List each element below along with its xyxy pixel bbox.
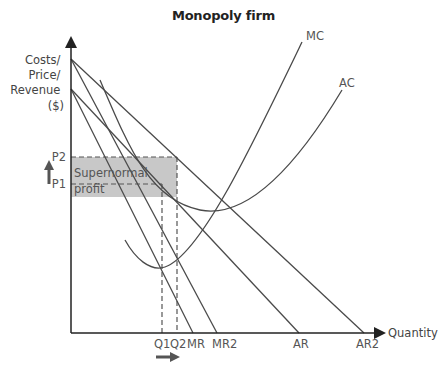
p2-label: P2: [52, 150, 66, 164]
supernormal-label-line-2: profit: [74, 182, 105, 196]
ar-label: AR: [293, 337, 309, 351]
mr2-label: MR2: [212, 337, 237, 351]
supernormal-label-line-1: Supernormal: [74, 166, 148, 180]
mc-curve: [125, 42, 302, 268]
y-label-line-4: ($): [48, 99, 64, 113]
ar2-label: AR2: [356, 337, 379, 351]
y-label-line-1: Costs/: [25, 53, 61, 67]
p1-label: P1: [52, 177, 66, 191]
y-label-line-3: Revenue: [10, 83, 60, 97]
y-label-line-2: Price/: [28, 68, 60, 82]
x-axis-label: Quantity: [388, 326, 438, 340]
ar-curve: [71, 89, 299, 333]
y-axis-label: Costs/ Price/ Revenue ($): [10, 53, 64, 113]
quantity-right-arrow-icon: [156, 352, 180, 362]
q2-label: Q2: [170, 337, 186, 351]
q1-label: Q1: [154, 337, 170, 351]
monopoly-diagram: Costs/ Price/ Revenue ($) Quantity P2 P1…: [0, 0, 447, 372]
ac-label: AC: [339, 76, 355, 90]
mc-label: MC: [306, 29, 324, 43]
mr-label: MR: [187, 337, 205, 351]
mr-curve: [71, 89, 193, 333]
